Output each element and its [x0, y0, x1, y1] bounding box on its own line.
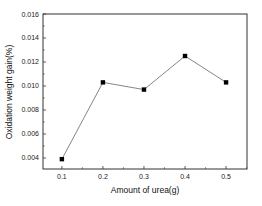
x-tick-label: 0.2: [98, 173, 108, 180]
x-tick-label: 0.5: [221, 173, 231, 180]
x-tick-label: 0.3: [139, 173, 149, 180]
data-point-marker: [183, 54, 187, 58]
series-line: [62, 56, 226, 159]
y-tick-label: 0.006: [21, 130, 39, 137]
y-tick-label: 0.010: [21, 82, 39, 89]
x-tick-label: 0.1: [57, 173, 67, 180]
y-tick-label: 0.008: [21, 106, 39, 113]
y-tick-label: 0.014: [21, 34, 39, 41]
y-tick-label: 0.004: [21, 154, 39, 161]
data-markers: [60, 54, 229, 162]
y-axis-title: Oxidation weight gain(%): [4, 45, 14, 140]
y-tick-label: 0.012: [21, 58, 39, 65]
y-tick-label: 0.016: [21, 11, 39, 18]
data-point-marker: [224, 80, 228, 84]
x-tick-label: 0.4: [180, 173, 190, 180]
x-axis-ticks: 0.10.20.30.40.5: [57, 166, 247, 180]
data-point-marker: [142, 87, 146, 91]
y-axis-ticks: 0.0040.0060.0080.0100.0120.0140.016: [21, 11, 46, 162]
line-chart: 0.0040.0060.0080.0100.0120.0140.016 0.10…: [0, 0, 262, 206]
data-point-marker: [101, 80, 105, 84]
data-point-marker: [60, 157, 64, 161]
x-axis-title: Amount of urea(g): [111, 185, 180, 195]
